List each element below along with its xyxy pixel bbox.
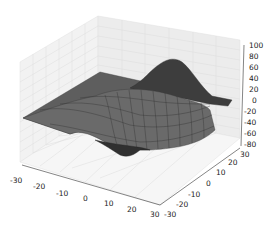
z-tick-label: -20 <box>244 107 256 116</box>
y-tick-label: 0 <box>206 179 211 188</box>
z-tick-label: 100 <box>249 41 264 50</box>
z-tick-label: 60 <box>249 63 259 72</box>
surface-3d-plot: 100 80 60 40 20 0 -20 -40 -60 -80 -30 -2… <box>0 0 275 229</box>
y-tick-label: 20 <box>228 158 238 167</box>
z-tick-label: 80 <box>249 52 259 61</box>
y-tick-label: -30 <box>164 210 176 219</box>
z-tick-label: -60 <box>244 129 256 138</box>
y-tick-label: -20 <box>176 200 188 209</box>
z-tick-label: 40 <box>249 74 259 83</box>
y-tick-label: 10 <box>216 168 226 177</box>
z-tick-label: -40 <box>244 118 256 127</box>
z-tick-label: 0 <box>252 96 257 105</box>
x-tick-label: -30 <box>10 176 22 185</box>
x-tick-label: 10 <box>104 199 114 208</box>
x-tick-label: 30 <box>150 210 160 219</box>
z-tick-label: 20 <box>249 85 259 94</box>
y-tick-label: -10 <box>188 190 200 199</box>
y-tick-label: 30 <box>240 150 250 159</box>
z-axis: 100 80 60 40 20 0 -20 -40 -60 -80 <box>241 41 264 149</box>
z-tick-label: -80 <box>244 140 256 149</box>
x-tick-label: 0 <box>83 194 88 203</box>
x-tick-label: -20 <box>33 182 45 191</box>
x-tick-label: 20 <box>127 205 137 214</box>
x-tick-label: -10 <box>56 189 68 198</box>
